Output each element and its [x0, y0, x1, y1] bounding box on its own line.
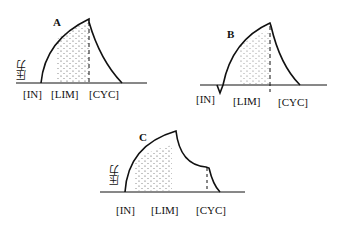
panel-a-tick-cyc: [CYC]: [89, 89, 119, 100]
panel-b-tick-cyc: [CYC]: [278, 97, 308, 108]
panel-a-graph: [16, 19, 147, 83]
panel-a-label: A: [53, 17, 61, 28]
panel-a-tick-lim: [LIM]: [51, 89, 79, 100]
panel-b-stipple: [240, 30, 270, 84]
panel-c-y-axis-label: 压力: [110, 165, 120, 185]
panel-b-graph: [200, 23, 327, 93]
panel-c-label: C: [139, 132, 147, 143]
panel-c-tick-in: [IN]: [116, 205, 135, 216]
panel-c-tick-cyc: [CYC]: [196, 205, 226, 216]
panel-a-tick-in: [IN]: [23, 89, 42, 100]
panel-b-tick-in: [IN]: [196, 94, 215, 105]
diagram-canvas: [0, 0, 337, 227]
panel-a-y-axis-label: 压力: [17, 60, 27, 80]
panel-a-stipple: [56, 21, 89, 82]
panel-b-tick-lim: [LIM]: [233, 96, 261, 107]
panel-c-tick-lim: [LIM]: [151, 205, 179, 216]
panel-c-graph: [100, 131, 245, 192]
panel-b-label: B: [227, 29, 234, 40]
